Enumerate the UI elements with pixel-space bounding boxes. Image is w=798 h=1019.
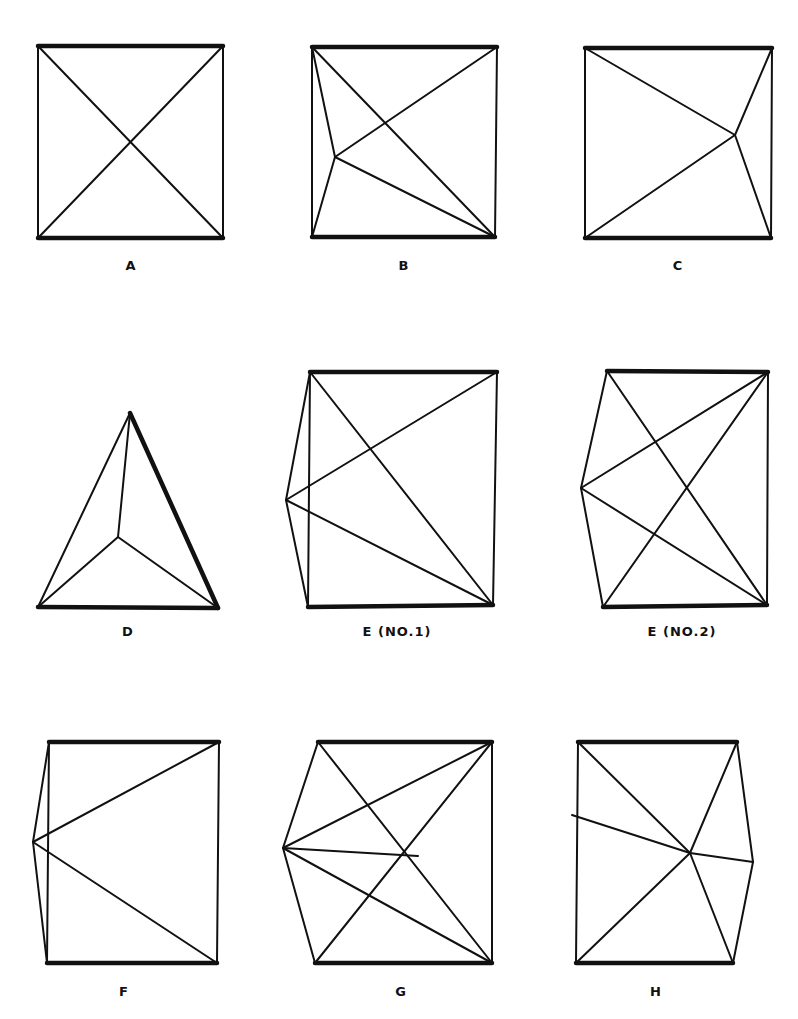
- edge: [690, 853, 733, 963]
- figure-A: [38, 46, 223, 238]
- figure-H: [572, 742, 753, 963]
- edge: [576, 742, 578, 963]
- edge: [771, 48, 772, 238]
- thick-edge: [308, 605, 493, 607]
- edge: [312, 47, 495, 237]
- edge: [495, 47, 497, 237]
- edge: [283, 848, 492, 963]
- edge: [767, 372, 768, 605]
- edge: [310, 372, 493, 605]
- edge: [38, 413, 130, 607]
- edge: [33, 742, 49, 842]
- thick-edge: [607, 371, 768, 372]
- edge: [578, 742, 690, 853]
- edge: [493, 372, 497, 605]
- figure-G: [283, 742, 492, 963]
- figure-B: [312, 47, 497, 237]
- label-F: F: [119, 984, 129, 999]
- label-B: B: [399, 258, 410, 273]
- edge: [283, 742, 492, 848]
- edge: [690, 742, 737, 853]
- edge: [585, 48, 735, 135]
- label-G: G: [395, 984, 407, 999]
- edge: [572, 815, 690, 853]
- edge: [312, 47, 335, 157]
- label-C: C: [673, 258, 684, 273]
- edge: [737, 742, 753, 862]
- figure-D: [38, 413, 218, 608]
- edge: [118, 413, 130, 537]
- edge: [581, 488, 603, 607]
- edge: [312, 157, 335, 237]
- thick-edge: [38, 607, 218, 608]
- thick-edge: [130, 413, 218, 608]
- edge: [33, 742, 219, 842]
- edge: [581, 371, 607, 488]
- figure-E1: [286, 372, 497, 607]
- label-H: H: [650, 984, 662, 999]
- edge: [733, 862, 753, 963]
- edge: [286, 372, 497, 500]
- figure-canvas: [0, 0, 798, 1019]
- edge: [33, 842, 47, 963]
- edge: [308, 372, 310, 607]
- edge: [576, 853, 690, 963]
- edge: [286, 500, 308, 607]
- edge: [735, 135, 771, 238]
- edge: [735, 48, 772, 135]
- thick-edge: [603, 605, 767, 607]
- figure-C: [585, 48, 772, 238]
- edge: [38, 537, 118, 607]
- label-E-no2: E (NO.2): [648, 624, 717, 639]
- edge: [283, 848, 418, 856]
- edge: [585, 135, 735, 238]
- edge: [33, 842, 217, 963]
- label-A: A: [125, 258, 136, 273]
- edge: [286, 372, 310, 500]
- label-E-no1: E (NO.1): [363, 624, 432, 639]
- label-D: D: [122, 624, 134, 639]
- edge: [286, 500, 493, 605]
- edge: [335, 157, 495, 237]
- figure-E2: [581, 371, 768, 607]
- edge: [283, 848, 315, 963]
- figure-F: [33, 742, 219, 963]
- edge: [335, 47, 497, 157]
- edge: [690, 853, 753, 862]
- edge: [217, 742, 219, 963]
